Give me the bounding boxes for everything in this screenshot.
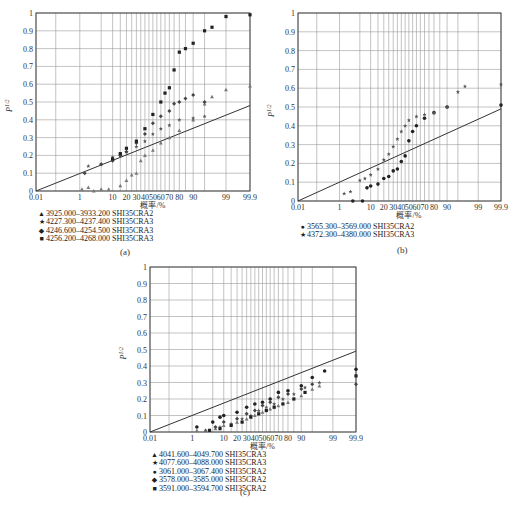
svg-text:0.7: 0.7: [137, 313, 147, 322]
legend-marker-icon: ■: [37, 235, 46, 243]
data-point: [143, 132, 147, 136]
y-axis-label: P1/2: [118, 347, 128, 361]
series-4: [111, 13, 252, 160]
data-point: [125, 178, 129, 182]
data-point: [192, 42, 195, 45]
svg-text:0.4: 0.4: [285, 122, 295, 131]
y-axis-ticks: 00.10.20.30.40.50.60.70.80.91: [285, 9, 295, 206]
data-point: [203, 100, 207, 104]
svg-text:10: 10: [367, 203, 375, 212]
svg-text:0.7: 0.7: [285, 65, 295, 74]
svg-text:1: 1: [338, 203, 342, 212]
svg-text:0.2: 0.2: [285, 159, 295, 168]
data-point: [299, 384, 303, 388]
data-point: [208, 429, 211, 432]
chart-b-legend: ●3565.300–3569.000 SHI35CRA2★4372.300–43…: [298, 223, 414, 240]
data-point: [351, 199, 355, 203]
legend-item: ★4372.300–4380.000 SHI35CRA3: [298, 231, 414, 239]
svg-text:1: 1: [29, 9, 33, 18]
data-point: [177, 100, 181, 104]
legend-marker-icon: ▲: [37, 210, 46, 218]
data-point: [159, 114, 163, 118]
data-point: [151, 113, 154, 116]
data-point: [151, 121, 155, 125]
svg-text:20: 20: [122, 193, 130, 202]
legend-marker-icon: ●: [298, 223, 307, 231]
data-point: [195, 428, 199, 432]
data-point: [253, 409, 257, 413]
data-point: [203, 29, 206, 32]
x-axis-label: 概率/%: [396, 210, 421, 220]
data-point: [139, 159, 143, 163]
svg-text:0.5: 0.5: [23, 98, 33, 107]
data-point: [248, 13, 251, 16]
svg-text:0.8: 0.8: [23, 45, 33, 54]
svg-text:0.3: 0.3: [285, 141, 295, 150]
data-point: [230, 424, 233, 427]
data-point: [299, 394, 303, 398]
chart-c-plot: 00.10.20.30.40.50.60.70.80.910.011102030…: [120, 255, 400, 455]
data-point: [135, 140, 138, 143]
svg-text:0.1: 0.1: [285, 178, 295, 187]
data-point: [277, 391, 281, 395]
grid: [298, 13, 501, 201]
data-point: [184, 47, 187, 50]
data-point: [286, 400, 290, 404]
svg-text:10: 10: [220, 434, 228, 443]
svg-text:0.6: 0.6: [137, 329, 147, 338]
svg-text:0.9: 0.9: [137, 280, 147, 289]
data-point: [245, 417, 249, 421]
data-point: [268, 397, 272, 401]
legend-marker-icon: ★: [37, 218, 46, 226]
legend-marker-icon: ◆: [150, 476, 159, 484]
data-point: [248, 84, 252, 88]
svg-text:0.01: 0.01: [291, 203, 305, 212]
svg-text:70: 70: [165, 193, 173, 202]
reference-line: [298, 109, 501, 201]
data-point: [303, 385, 307, 389]
data-point: [365, 186, 369, 190]
data-point: [361, 199, 365, 203]
data-point: [387, 175, 391, 179]
data-point: [396, 167, 400, 171]
data-point: [107, 187, 111, 191]
svg-text:0.8: 0.8: [137, 296, 147, 305]
data-point: [463, 84, 467, 88]
legend-label: 4372.300–4380.000 SHI35CRA3: [307, 231, 414, 239]
data-point: [235, 417, 239, 421]
svg-text:0.6: 0.6: [285, 84, 295, 93]
data-point: [292, 397, 295, 400]
series-2: [342, 82, 503, 195]
legend-label: 3591.000–3594.700 SHI35CRA2: [159, 485, 266, 493]
data-point: [348, 190, 352, 194]
reference-line: [150, 351, 356, 432]
legend-label: 4256.200–4268.000 SHI35CRA3: [46, 235, 153, 243]
figure-c: 00.10.20.30.40.50.60.70.80.910.011102030…: [120, 255, 400, 495]
svg-text:1: 1: [190, 434, 194, 443]
data-point: [143, 127, 146, 130]
data-point: [286, 392, 290, 396]
data-point: [253, 402, 257, 406]
reference-line: [36, 106, 250, 191]
data-point: [118, 184, 122, 188]
svg-text:1: 1: [143, 263, 147, 272]
svg-text:90: 90: [297, 434, 305, 443]
svg-text:0.5: 0.5: [285, 103, 295, 112]
data-point: [168, 86, 171, 89]
legend-item: ■4256.200–4268.000 SHI35CRA3: [37, 235, 153, 243]
data-point: [86, 186, 90, 190]
svg-text:0.01: 0.01: [143, 434, 157, 443]
svg-text:0.3: 0.3: [137, 379, 147, 388]
data-point: [211, 420, 215, 424]
data-point: [130, 173, 134, 177]
data-point: [210, 26, 213, 29]
svg-text:99.9: 99.9: [243, 193, 257, 202]
svg-text:70: 70: [421, 203, 429, 212]
data-point: [273, 406, 276, 409]
data-point: [310, 387, 314, 391]
y-axis-label: P1/2: [4, 99, 14, 113]
data-point: [177, 129, 181, 133]
svg-text:0.9: 0.9: [23, 27, 33, 36]
svg-text:1: 1: [78, 193, 82, 202]
data-point: [363, 176, 367, 180]
